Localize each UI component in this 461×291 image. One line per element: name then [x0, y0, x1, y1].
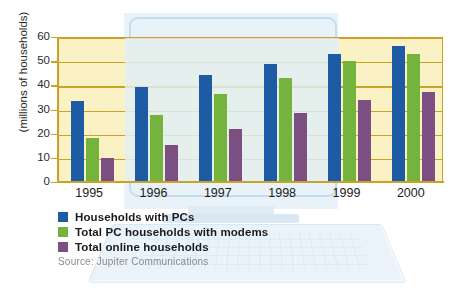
bar-2000-series-0	[392, 46, 405, 181]
x-axis-tick-label-1996: 1996	[122, 186, 186, 200]
gridline	[58, 135, 442, 136]
bar-1999-series-1	[343, 61, 356, 181]
y-axis-tick-label: 10	[26, 152, 50, 164]
y-axis-tick-label: 0	[26, 176, 50, 188]
gridline	[58, 62, 442, 63]
x-axis-tick-label-2000: 2000	[379, 186, 443, 200]
x-axis-tick-label-1997: 1997	[186, 186, 250, 200]
legend-label-0: Households with PCs	[75, 211, 194, 223]
bar-group-1996	[135, 38, 178, 181]
chart-figure: (millions of households) 0102030405060 1…	[0, 0, 461, 291]
gridline	[58, 86, 442, 87]
bar-2000-series-2	[422, 92, 435, 181]
legend: Households with PCsTotal PC households w…	[58, 210, 268, 255]
gridline	[58, 111, 442, 112]
y-axis-tick-label: 30	[26, 104, 50, 116]
y-axis-tick-mark	[51, 37, 58, 38]
bar-1996-series-0	[135, 87, 148, 181]
legend-label-2: Total online households	[75, 241, 209, 253]
bar-1995-series-1	[86, 138, 99, 182]
x-axis-tick-label-1999: 1999	[315, 186, 379, 200]
bar-1998-series-1	[279, 78, 292, 181]
x-axis-line	[57, 181, 444, 183]
legend-swatch-0	[58, 212, 68, 222]
x-axis-tick-label-1995: 1995	[57, 186, 121, 200]
legend-item-1: Total PC households with modems	[58, 225, 268, 239]
y-axis-tick-label: 60	[26, 31, 50, 43]
bar-1996-series-2	[165, 145, 178, 181]
bar-group-1997	[199, 38, 242, 181]
source-note: Source: Jupiter Communications	[58, 256, 209, 267]
y-axis-tick-mark	[51, 61, 58, 62]
plot-area	[57, 37, 443, 182]
y-axis-tick-label: 50	[26, 55, 50, 67]
y-axis-tick-mark	[51, 158, 58, 159]
legend-item-0: Households with PCs	[58, 210, 268, 224]
y-axis-tick-label: 20	[26, 128, 50, 140]
gridline	[58, 159, 442, 160]
bar-1995-series-0	[71, 101, 84, 181]
legend-label-1: Total PC households with modems	[75, 226, 268, 238]
bar-group-2000	[392, 38, 435, 181]
legend-item-2: Total online households	[58, 240, 268, 254]
bar-group-1998	[264, 38, 307, 181]
y-axis-tick-mark	[51, 110, 58, 111]
bar-group-1999	[328, 38, 371, 181]
bar-group-1995	[71, 38, 114, 181]
y-axis-tick-mark	[51, 85, 58, 86]
y-axis-tick-labels: 0102030405060	[20, 0, 50, 291]
x-axis-tick-label-1998: 1998	[250, 186, 314, 200]
y-axis-tick-label: 40	[26, 79, 50, 91]
y-axis-tick-mark	[51, 134, 58, 135]
bar-1995-series-2	[101, 158, 114, 181]
bar-1997-series-0	[199, 75, 212, 181]
bar-1997-series-2	[229, 129, 242, 181]
bar-1996-series-1	[150, 115, 163, 181]
gridline	[58, 38, 442, 39]
bar-1998-series-2	[294, 113, 307, 181]
y-axis-tick-mark	[51, 182, 58, 183]
bar-1999-series-2	[358, 100, 371, 181]
bar-2000-series-1	[407, 54, 420, 181]
bar-1998-series-0	[264, 64, 277, 181]
legend-swatch-2	[58, 242, 68, 252]
legend-swatch-1	[58, 227, 68, 237]
bar-1999-series-0	[328, 54, 341, 181]
bar-1997-series-1	[214, 94, 227, 181]
